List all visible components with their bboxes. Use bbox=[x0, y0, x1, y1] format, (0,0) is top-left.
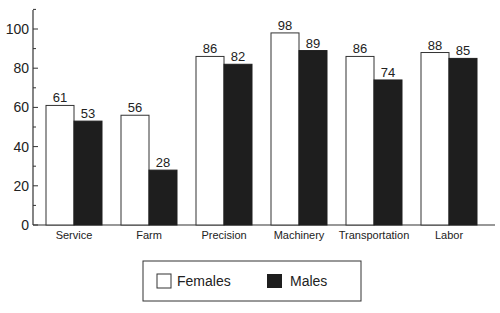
bar-females bbox=[271, 33, 299, 225]
y-tick-label: 0 bbox=[21, 217, 29, 233]
value-label: 28 bbox=[156, 155, 170, 170]
category-label: Transportation bbox=[339, 229, 410, 241]
y-tick-label: 80 bbox=[13, 60, 29, 76]
y-tick-label: 20 bbox=[13, 178, 29, 194]
bar-females bbox=[196, 56, 224, 225]
y-tick-label: 60 bbox=[13, 99, 29, 115]
category-label: Farm bbox=[136, 229, 162, 241]
bar-males bbox=[74, 121, 102, 225]
category-label: Machinery bbox=[274, 229, 325, 241]
legend-label-males: Males bbox=[290, 273, 327, 289]
value-label: 86 bbox=[203, 41, 217, 56]
value-label: 88 bbox=[428, 38, 442, 53]
category-label: Precision bbox=[201, 229, 246, 241]
bar-males bbox=[224, 64, 252, 225]
value-label: 86 bbox=[353, 41, 367, 56]
bar-females bbox=[121, 115, 149, 225]
bar-females bbox=[346, 56, 374, 225]
value-label: 82 bbox=[231, 49, 245, 64]
bar-males bbox=[299, 51, 327, 225]
y-tick-label: 40 bbox=[13, 139, 29, 155]
legend: Females Males bbox=[143, 261, 361, 301]
bar-males bbox=[374, 80, 402, 225]
category-label: Service bbox=[56, 229, 93, 241]
category-label: Labor bbox=[435, 229, 463, 241]
value-label: 53 bbox=[81, 106, 95, 121]
bar-chart: 020406080100 6153Service5628Farm8682Prec… bbox=[0, 0, 500, 313]
legend-swatch-females bbox=[157, 274, 171, 288]
value-label: 89 bbox=[306, 36, 320, 51]
bar-males bbox=[449, 58, 477, 225]
bar-males bbox=[149, 170, 177, 225]
bar-females bbox=[46, 105, 74, 225]
value-label: 56 bbox=[128, 100, 142, 115]
value-label: 61 bbox=[53, 90, 67, 105]
legend-label-females: Females bbox=[177, 273, 231, 289]
value-label: 98 bbox=[278, 18, 292, 33]
y-tick-label: 100 bbox=[6, 21, 30, 37]
legend-swatch-males bbox=[267, 274, 282, 288]
value-label: 85 bbox=[456, 43, 470, 58]
bars bbox=[46, 33, 477, 225]
labels: 6153Service5628Farm8682Precision9889Mach… bbox=[53, 18, 470, 241]
bar-females bbox=[421, 53, 449, 225]
value-label: 74 bbox=[381, 65, 395, 80]
